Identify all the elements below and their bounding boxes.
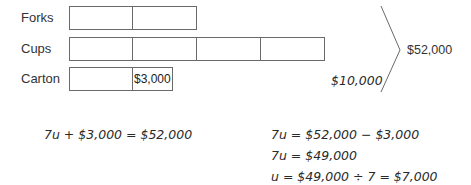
equation-right-1: 7u = $52,000 − $3,000 bbox=[271, 127, 419, 142]
equation-right-3: u = $49,000 ÷ 7 = $7,000 bbox=[271, 169, 438, 184]
difference-label: $10,000 bbox=[331, 73, 383, 88]
brace-icon bbox=[0, 0, 471, 185]
equation-right-2: 7u = $49,000 bbox=[271, 148, 357, 163]
equation-left-1: 7u + $3,000 = $52,000 bbox=[44, 127, 192, 142]
total-label: $52,000 bbox=[407, 43, 452, 57]
